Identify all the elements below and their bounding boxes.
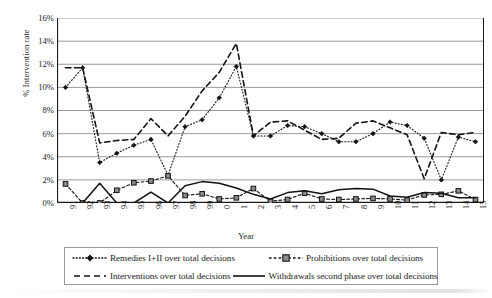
legend-label-remedies: Remedies I+II over total decisions — [108, 253, 235, 263]
x-tick-4: 4 — [291, 183, 300, 209]
legend-row-1: Remedies I+II over total decisions Prohi… — [65, 248, 437, 267]
x-tick-0: 0 — [223, 183, 232, 209]
dotted-diamond-marker-icon — [72, 252, 108, 264]
legend-row-2: Interventions over total decisions Withd… — [65, 266, 437, 285]
x-tick-92: 92 — [86, 183, 95, 209]
legend-item-remedies: Remedies I+II over total decisions — [72, 248, 268, 267]
x-tick-99: 99 — [206, 183, 215, 209]
x-tick-10: 10 — [394, 183, 403, 209]
x-tick-6: 6 — [325, 183, 334, 209]
legend-item-interventions: Interventions over total decisions — [72, 266, 231, 285]
x-tick-96: 96 — [155, 183, 164, 209]
x-tick-13: 13 — [445, 183, 454, 209]
x-tick-95: 95 — [137, 183, 146, 209]
page-edge-artifact — [0, 289, 492, 293]
dashed-line-icon — [72, 270, 108, 282]
x-tick-11: 11 — [411, 183, 420, 209]
x-tick-9: 9 — [377, 183, 386, 209]
x-tick-98: 98 — [189, 183, 198, 209]
x-tick-5: 5 — [308, 183, 317, 209]
chart-figure: % Intervention rate 16% 14% 12% 10% 8% 6… — [0, 0, 492, 298]
x-tick-94: 94 — [120, 183, 129, 209]
dashed-square-marker-icon — [268, 252, 304, 264]
x-tick-14: 14 — [462, 183, 471, 209]
x-tick-3: 3 — [274, 183, 283, 209]
x-tick-91: 91 — [69, 183, 78, 209]
x-tick-93: 93 — [103, 183, 112, 209]
x-tick-7: 7 — [342, 183, 351, 209]
x-tick-15: 15 — [479, 183, 488, 209]
legend-label-interventions: Interventions over total decisions — [108, 271, 231, 281]
legend-label-withdrawals: Withdrawals second phase over total deci… — [267, 271, 438, 281]
x-tick-97: 97 — [172, 183, 181, 209]
x-axis-title: Year — [0, 231, 492, 241]
legend-label-prohibitions: Prohibitions over total decisions — [304, 253, 423, 263]
solid-line-icon — [231, 270, 267, 282]
x-tick-8: 8 — [360, 183, 369, 209]
legend-item-prohibitions: Prohibitions over total decisions — [268, 248, 423, 267]
x-tick-2: 2 — [257, 183, 266, 209]
chart-legend: Remedies I+II over total decisions Prohi… — [64, 247, 438, 285]
x-tick-12: 12 — [428, 183, 437, 209]
legend-item-withdrawals: Withdrawals second phase over total deci… — [231, 266, 438, 285]
x-tick-1: 1 — [240, 183, 249, 209]
